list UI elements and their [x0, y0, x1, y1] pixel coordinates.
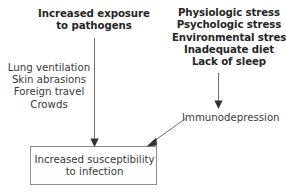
- arrow-immunodepression-to-outcome: [147, 118, 188, 147]
- node-outcome-box: Increased susceptibility to infection: [30, 146, 157, 185]
- node-immunodepression-label: Immunodepression: [182, 112, 286, 124]
- arrow-stressors-to-immunodepression: [214, 73, 222, 109]
- node-increased-exposure-heading: Increased exposure to pathogens: [24, 8, 164, 31]
- diagram-canvas: Increased exposure to pathogens Lung ven…: [0, 0, 286, 193]
- node-stressors-list: Physiologic stress Psychologic stress En…: [172, 7, 286, 68]
- node-exposure-routes-list: Lung ventilation Skin abrasions Foreign …: [2, 62, 96, 111]
- node-outcome-label: Increased susceptibility to infection: [31, 154, 158, 179]
